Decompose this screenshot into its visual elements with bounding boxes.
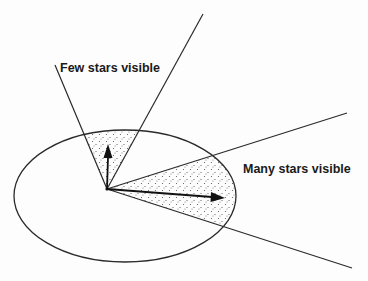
observer-vertex — [105, 187, 108, 190]
narrow-cone-left-line — [55, 65, 107, 189]
many-stars-label: Many stars visible — [243, 162, 351, 176]
narrow-cone-fill — [55, 14, 203, 189]
wide-cone-fill — [107, 113, 352, 268]
few-stars-label: Few stars visible — [60, 61, 160, 75]
field-of-view-diagram — [0, 0, 368, 281]
